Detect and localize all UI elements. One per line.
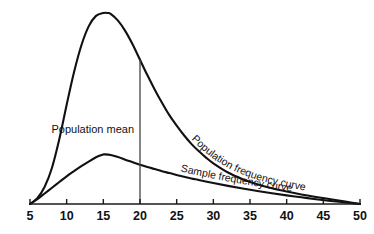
chart-canvas: 5101520253035404550 Population mean Popu… [0, 0, 374, 234]
x-tick-label-40: 40 [280, 209, 294, 223]
curve-label-group: Population frequency curve Sample freque… [180, 132, 307, 193]
x-tick-label-30: 30 [206, 209, 220, 223]
population-mean-label: Population mean [51, 123, 134, 135]
x-axis-tick-labels: 5101520253035404550 [27, 209, 367, 223]
x-tick-label-5: 5 [27, 209, 34, 223]
x-tick-label-50: 50 [353, 209, 367, 223]
x-tick-label-10: 10 [60, 209, 74, 223]
x-tick-label-20: 20 [133, 209, 147, 223]
x-tick-label-15: 15 [96, 209, 110, 223]
x-tick-label-35: 35 [243, 209, 257, 223]
x-axis-group: 5101520253035404550 [27, 199, 367, 223]
annotation-group: Population mean [51, 123, 134, 135]
frequency-distribution-figure: 5101520253035404550 Population mean Popu… [0, 0, 374, 234]
x-tick-label-25: 25 [170, 209, 184, 223]
x-tick-label-45: 45 [316, 209, 330, 223]
